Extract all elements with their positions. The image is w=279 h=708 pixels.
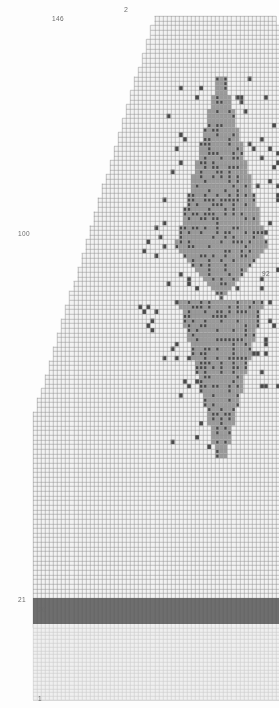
figure-canvas-stage (0, 0, 279, 708)
top-tick-2: 2 (124, 6, 128, 13)
left-tick-20: 20 (38, 607, 46, 614)
left-tick-146: 146 (52, 16, 64, 23)
raster-grid-canvas (0, 0, 279, 708)
right-tick-92: 92 (262, 271, 270, 278)
left-tick-21: 21 (18, 597, 26, 604)
left-tick-100: 100 (18, 231, 30, 238)
left-tick-1: 1 (38, 696, 42, 703)
